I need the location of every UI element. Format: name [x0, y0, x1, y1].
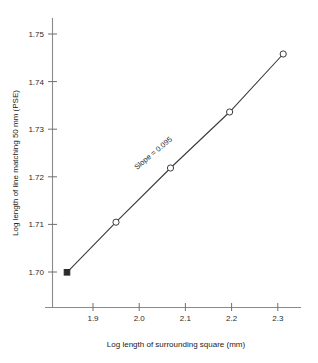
y-tick-label-175: 1.75: [28, 30, 44, 39]
y-tick-label-174: 1.74: [28, 78, 44, 87]
y-tick-label-171: 1.71: [28, 220, 44, 229]
x-axis-ticks: 1.9 2.0 2.1 2.2 2.3: [87, 303, 283, 323]
y-tick-label-170: 1.70: [28, 268, 44, 277]
data-point-5: [280, 51, 286, 57]
scatter-plot: 1.75 1.74 1.73 1.72 1.71 1.70 1.9 2.0 2.…: [0, 0, 318, 363]
data-point-4: [227, 109, 233, 115]
x-tick-label-23: 2.3: [272, 314, 284, 323]
x-tick-label-22: 2.2: [226, 314, 238, 323]
data-point-3: [167, 165, 173, 171]
x-tick-label-19: 1.9: [87, 314, 99, 323]
data-point-2: [113, 219, 119, 225]
y-axis-title: Log length of line matching 50 mm (PSE): [11, 90, 20, 236]
x-tick-label-20: 2.0: [134, 314, 146, 323]
chart-figure: 1.75 1.74 1.73 1.72 1.71 1.70 1.9 2.0 2.…: [0, 0, 318, 363]
x-tick-label-21: 2.1: [180, 314, 192, 323]
data-series-line: [67, 54, 283, 272]
y-tick-label-172: 1.72: [28, 173, 44, 182]
axes-group: [45, 18, 301, 308]
y-tick-label-173: 1.73: [28, 125, 44, 134]
x-axis-title: Log length of surrounding square (mm): [107, 340, 246, 349]
data-point-1: [64, 270, 70, 276]
